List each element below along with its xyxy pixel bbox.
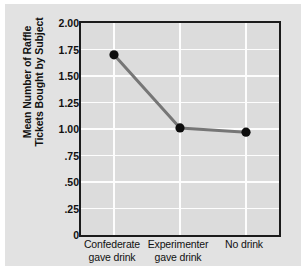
x-tick-label: No drink [196,238,292,251]
plot-inner [81,23,279,235]
x-tick-label-line-2: gave drink [130,251,226,264]
y-axis-title-line-1: Mean Number of Raffle [20,26,33,138]
x-axis-tick-labels: Confederategave drinkExperimentergave dr… [79,238,277,268]
y-tick-label: 1.25 [41,97,79,108]
y-tick-label: .50 [41,177,79,188]
y-tick-label: .25 [41,203,79,214]
series-line [114,55,246,132]
y-tick-label: 1.75 [41,44,79,55]
data-point-marker [175,123,184,132]
figure-panel: Mean Number of Raffle Tickets Bought by … [5,4,301,266]
data-point-marker [241,128,250,137]
y-tick-label: 2.00 [41,18,79,29]
x-tick-label-line-1: No drink [225,238,263,250]
y-axis-tick-labels: 2.001.751.501.251.00.75.50.250 [41,4,79,266]
y-tick-label: 1.50 [41,71,79,82]
plot-area [79,21,281,237]
y-tick-label: .75 [41,150,79,161]
data-series [81,23,279,235]
data-point-marker [109,50,118,59]
y-tick-label: 1.00 [41,124,79,135]
